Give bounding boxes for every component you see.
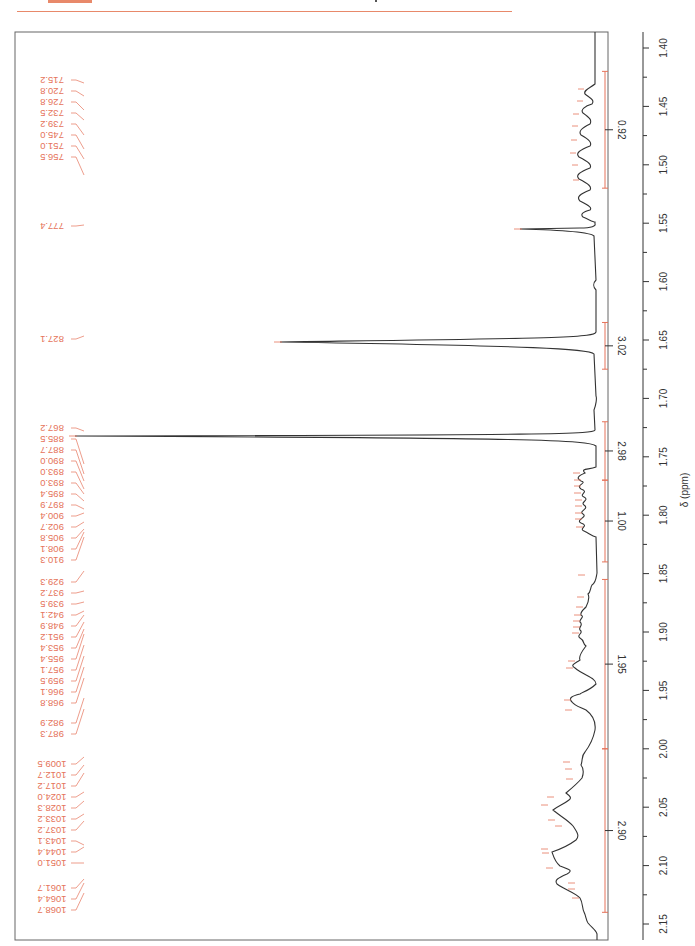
x-tick-label: 1.70: [658, 388, 669, 408]
peak-label: 1017.2: [37, 781, 66, 792]
peak-label: 867.2: [40, 423, 64, 434]
peak-label: 953.4: [40, 643, 64, 654]
x-tick-label: 2.15: [658, 914, 669, 934]
peak-label: 937.2: [40, 588, 64, 599]
peak-label: 745.0: [40, 130, 64, 141]
x-tick-label: 1.65: [658, 330, 669, 350]
peak-label: 1012.7: [37, 770, 66, 781]
plot-frame: [15, 32, 608, 940]
integral-value: 0.92: [616, 120, 627, 140]
peak-label: 955.4: [40, 654, 64, 665]
peak-label: 777.4: [40, 221, 64, 232]
integral-value: 2.98: [616, 441, 627, 461]
peak-label: 948.9: [40, 621, 64, 632]
x-tick-label: 1.50: [658, 155, 669, 175]
peak-label: 893.0: [40, 467, 64, 478]
peak-labels: 715.2720.8726.8732.5739.2745.0751.0756.5…: [37, 75, 66, 916]
peak-label: 890.0: [40, 456, 64, 467]
peak-label: 1009.5: [37, 759, 66, 770]
x-tick-label: 1.80: [658, 505, 669, 525]
spectrum-trace: [75, 32, 597, 940]
x-tick-label: 1.90: [658, 622, 669, 642]
peak-label: 905.8: [40, 533, 64, 544]
peak-label: 1051.0: [37, 858, 66, 869]
peak-label: 895.4: [40, 489, 64, 500]
peak-label: 893.0: [40, 478, 64, 489]
peak-label: 1028.3: [37, 803, 66, 814]
peak-tick-marks: [69, 89, 585, 898]
nmr-spectrum-chart: 1.401.451.501.551.601.651.701.751.801.85…: [0, 0, 695, 946]
peak-label: 732.5: [40, 108, 64, 119]
peak-label: 1033.2: [37, 814, 66, 825]
peak-label: 1068.7: [37, 905, 66, 916]
peak-label: 951.2: [40, 632, 64, 643]
x-axis: 1.401.451.501.551.601.651.701.751.801.85…: [643, 38, 669, 934]
peak-label: 715.2: [40, 75, 64, 86]
peak-label: 756.5: [40, 152, 64, 163]
peak-label: 908.1: [40, 544, 64, 555]
peak-label: 968.8: [40, 698, 64, 709]
peak-label: 910.3: [40, 555, 64, 566]
peak-label: 939.5: [40, 599, 64, 610]
peak-label: 966.1: [40, 687, 64, 698]
peak-label: 1037.2: [37, 825, 66, 836]
peak-label: 982.9: [40, 718, 64, 729]
peak-label: 1061.7: [37, 883, 66, 894]
peak-label: 902.7: [40, 522, 64, 533]
peak-label: 1044.4: [37, 847, 66, 858]
peak-label: 726.8: [40, 97, 64, 108]
peak-label: 900.4: [40, 511, 64, 522]
peak-label: 739.2: [40, 119, 64, 130]
x-tick-label: 1.95: [658, 680, 669, 700]
x-tick-label: 2.00: [658, 739, 669, 759]
peak-label: 957.1: [40, 665, 64, 676]
x-tick-label: 1.40: [658, 38, 669, 58]
peak-label: 897.9: [40, 500, 64, 511]
peak-label: 929.3: [40, 577, 64, 588]
x-tick-label: 1.85: [658, 563, 669, 583]
peak-label: 942.1: [40, 610, 64, 621]
peak-label: 959.5: [40, 676, 64, 687]
integral-value: 1.00: [616, 511, 627, 531]
peak-label: 887.7: [40, 445, 64, 456]
integral-value: 1.95: [616, 654, 627, 674]
x-tick-label: 2.05: [658, 797, 669, 817]
peak-label: 1024.0: [37, 792, 66, 803]
x-tick-label: 1.55: [658, 213, 669, 233]
x-axis-title: δ (ppm): [679, 473, 690, 507]
peak-label: 751.0: [40, 141, 64, 152]
peak-label: 885.5: [40, 434, 64, 445]
peak-label: 1043.1: [37, 836, 66, 847]
integral-bars: 0.923.022.981.001.952.90: [602, 71, 627, 912]
peak-label: 720.8: [40, 86, 64, 97]
peak-label: 987.3: [40, 729, 64, 740]
peak-label: 1064.4: [37, 894, 66, 905]
peak-label-connectors: [71, 80, 84, 910]
integral-value: 2.90: [616, 821, 627, 841]
x-tick-label: 1.75: [658, 447, 669, 467]
x-tick-label: 1.45: [658, 96, 669, 116]
peak-label: 827.1: [40, 334, 64, 345]
integral-value: 3.02: [616, 336, 627, 356]
x-tick-label: 2.10: [658, 855, 669, 875]
x-tick-label: 1.60: [658, 271, 669, 291]
